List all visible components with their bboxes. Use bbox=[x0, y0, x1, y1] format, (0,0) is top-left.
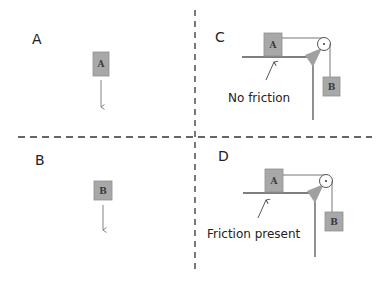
block-b-label: B bbox=[328, 82, 336, 92]
panel-label-d: D bbox=[218, 148, 229, 164]
pulley-axle bbox=[323, 43, 325, 45]
panel-c: C A B No friction bbox=[215, 29, 340, 120]
panel-d: D A B Friction present bbox=[207, 148, 343, 257]
pulley-axle bbox=[325, 180, 327, 182]
panel-b: B B bbox=[35, 152, 112, 230]
block-a-label: A bbox=[97, 59, 106, 69]
block-b-label: B bbox=[330, 217, 338, 227]
annotation-friction-present: Friction present bbox=[207, 227, 301, 241]
panel-a: A A bbox=[32, 31, 109, 107]
panel-label-c: C bbox=[215, 29, 225, 45]
block-a-label: A bbox=[270, 176, 279, 186]
diagram-canvas: A A B B C A B No friction bbox=[0, 0, 390, 281]
panel-label-b: B bbox=[35, 152, 45, 168]
pulley-support bbox=[307, 184, 324, 203]
pulley-support bbox=[305, 48, 322, 67]
block-b-label: B bbox=[99, 186, 107, 196]
annotation-no-friction: No friction bbox=[228, 91, 290, 105]
panel-label-a: A bbox=[32, 31, 42, 47]
annotation-arrow-icon bbox=[258, 200, 266, 218]
block-a-label: A bbox=[269, 40, 278, 50]
annotation-arrow-icon bbox=[266, 62, 274, 80]
